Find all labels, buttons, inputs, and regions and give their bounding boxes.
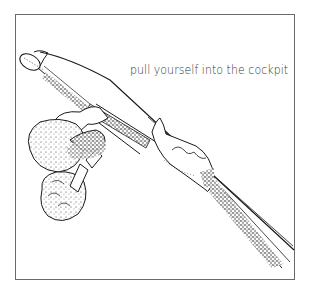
figure-caption: pull yourself into the cockpit — [130, 62, 288, 77]
kayak-reentry-illustration — [0, 0, 310, 295]
kayak-bow — [17, 50, 48, 73]
hull-shadow-lower — [204, 180, 283, 268]
hull-shadow — [42, 72, 88, 112]
paddler-leg — [152, 118, 214, 192]
paddler-figure — [28, 107, 108, 221]
